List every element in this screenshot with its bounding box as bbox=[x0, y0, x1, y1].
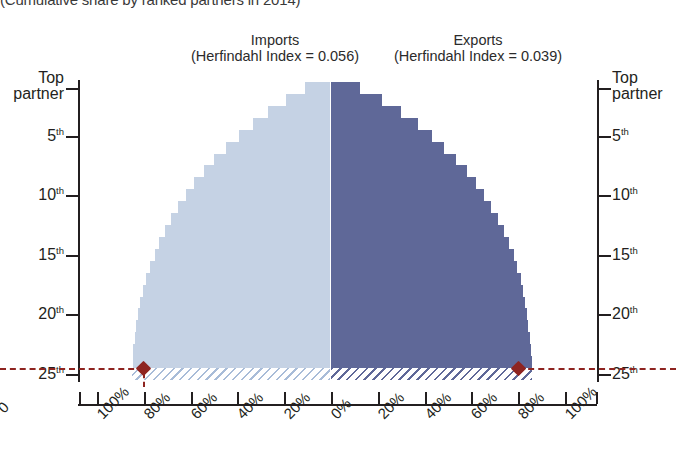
x-axis-cap-left bbox=[79, 392, 81, 404]
bar-imports-24 bbox=[133, 356, 330, 368]
bar-imports-18 bbox=[143, 285, 330, 297]
y-tick-right-0 bbox=[599, 88, 611, 90]
y-label-left-1: 5th bbox=[0, 127, 64, 144]
y-label-left-2: 10th bbox=[0, 186, 64, 203]
bar-exports-18 bbox=[331, 285, 523, 297]
exports-marker-leader bbox=[518, 368, 676, 370]
bar-imports-13 bbox=[165, 225, 330, 237]
y-label-left-3: 15th bbox=[0, 246, 64, 263]
bar-imports-22 bbox=[135, 332, 330, 344]
bar-exports-24 bbox=[331, 356, 532, 368]
y-tick-left-1 bbox=[66, 136, 78, 138]
y-tick-right-3 bbox=[599, 255, 611, 257]
x-label-right-4: 100% bbox=[561, 383, 600, 422]
bar-exports-17 bbox=[331, 273, 521, 285]
y-label-right-4: 20th bbox=[612, 305, 676, 322]
bar-exports-11 bbox=[331, 201, 491, 213]
bar-exports-4 bbox=[331, 118, 418, 130]
y-label-right-0: Toppartner bbox=[612, 70, 676, 103]
bar-exports-13 bbox=[331, 225, 504, 237]
y-tick-right-5 bbox=[599, 374, 611, 376]
exports-header-name: Exports bbox=[350, 33, 606, 49]
x-tick-left-2 bbox=[191, 392, 193, 404]
bar-imports-25 bbox=[132, 368, 330, 380]
bar-exports-15 bbox=[331, 249, 514, 261]
x-tick-right-1 bbox=[425, 392, 427, 404]
bar-exports-20 bbox=[331, 308, 527, 320]
bar-imports-12 bbox=[171, 213, 330, 225]
x-tick-left-1 bbox=[144, 392, 146, 404]
imports-marker-leader bbox=[0, 368, 144, 370]
imports-bars bbox=[96, 82, 330, 380]
exports-bars bbox=[331, 82, 565, 380]
bar-exports-8 bbox=[331, 165, 467, 177]
y-label-left-0: Toppartner bbox=[0, 70, 64, 103]
bar-exports-25 bbox=[331, 368, 532, 380]
bar-exports-7 bbox=[331, 154, 456, 166]
bar-imports-11 bbox=[178, 201, 330, 213]
x-tick-left-0 bbox=[97, 392, 99, 404]
bar-imports-6 bbox=[226, 142, 330, 154]
y-axis-right bbox=[597, 80, 599, 382]
x-tick-left-5 bbox=[331, 392, 333, 404]
bar-imports-7 bbox=[214, 154, 330, 166]
y-label-left-4: 20th bbox=[0, 305, 64, 322]
y-axis-left bbox=[78, 80, 80, 382]
y-tick-left-3 bbox=[66, 255, 78, 257]
bar-imports-14 bbox=[159, 237, 330, 249]
y-label-right-1: 5th bbox=[612, 127, 676, 144]
bar-imports-1 bbox=[305, 82, 330, 94]
bar-imports-3 bbox=[268, 106, 330, 118]
bar-exports-9 bbox=[331, 177, 476, 189]
bar-imports-4 bbox=[253, 118, 330, 130]
plot-area bbox=[96, 82, 565, 380]
bar-exports-21 bbox=[331, 320, 528, 332]
bar-imports-5 bbox=[239, 130, 330, 142]
x-tick-right-4 bbox=[565, 392, 567, 404]
bar-imports-21 bbox=[136, 320, 330, 332]
y-tick-left-4 bbox=[66, 314, 78, 316]
chart-title: (Cumulative share by ranked partners in … bbox=[0, 0, 430, 8]
bar-imports-10 bbox=[186, 189, 330, 201]
bar-imports-16 bbox=[150, 261, 330, 273]
y-tick-left-5 bbox=[66, 374, 78, 376]
imports-marker-dropline bbox=[143, 373, 147, 387]
y-label-right-3: 15th bbox=[612, 246, 676, 263]
bar-imports-19 bbox=[140, 297, 330, 309]
bar-imports-20 bbox=[138, 308, 330, 320]
bar-imports-23 bbox=[133, 344, 330, 356]
y-tick-right-1 bbox=[599, 136, 611, 138]
bar-exports-16 bbox=[331, 261, 517, 273]
bar-imports-8 bbox=[204, 165, 330, 177]
bar-imports-17 bbox=[146, 273, 330, 285]
bar-imports-2 bbox=[286, 94, 330, 106]
x-label-left-0: 100% bbox=[93, 383, 132, 422]
exports-header: Exports (Herfindahl Index = 0.039) bbox=[350, 33, 606, 64]
bar-exports-14 bbox=[331, 237, 509, 249]
x-tick-right-0 bbox=[378, 392, 380, 404]
y-tick-right-4 bbox=[599, 314, 611, 316]
y-tick-right-2 bbox=[599, 195, 611, 197]
bar-exports-12 bbox=[331, 213, 498, 225]
bar-imports-9 bbox=[194, 177, 330, 189]
bar-exports-23 bbox=[331, 344, 531, 356]
bar-exports-19 bbox=[331, 297, 525, 309]
bar-exports-5 bbox=[331, 130, 432, 142]
y-tick-left-0 bbox=[66, 88, 78, 90]
chart-canvas: (Cumulative share by ranked partners in … bbox=[0, 0, 676, 456]
bar-imports-15 bbox=[155, 249, 331, 261]
bar-exports-10 bbox=[331, 189, 484, 201]
bar-exports-6 bbox=[331, 142, 444, 154]
bar-exports-22 bbox=[331, 332, 530, 344]
y-tick-left-2 bbox=[66, 195, 78, 197]
y-label-right-2: 10th bbox=[612, 186, 676, 203]
x-axis-stray-label: 0 bbox=[0, 398, 12, 416]
exports-header-index: (Herfindahl Index = 0.039) bbox=[350, 49, 606, 65]
bar-exports-2 bbox=[331, 94, 382, 106]
bar-exports-3 bbox=[331, 106, 401, 118]
bar-exports-1 bbox=[331, 82, 360, 94]
